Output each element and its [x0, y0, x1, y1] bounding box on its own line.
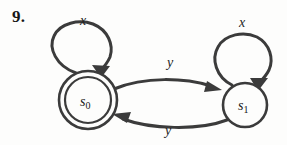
transition-label-s0-to-s1: y — [167, 56, 173, 70]
state-s0-subscript: 0 — [85, 100, 90, 111]
state-s1-subscript: 1 — [243, 104, 248, 115]
transition-s0-self-loop-path — [52, 22, 111, 73]
state-node-s0[interactable]: s0 — [59, 71, 117, 129]
figure-container: 9. s0 — [0, 0, 287, 145]
transition-s0-to-s1 — [114, 80, 222, 92]
transition-s1-to-s0-path — [123, 119, 227, 127]
transition-label-s0-self-loop: x — [80, 14, 86, 28]
transition-label-s1-to-s0: y — [165, 124, 171, 138]
transition-s0-to-s1-arrowhead — [204, 81, 222, 92]
state-node-s1[interactable]: s1 — [223, 83, 267, 127]
transition-s0-to-s1-path — [114, 80, 211, 89]
transition-s0-self-loop — [52, 22, 111, 78]
transition-s1-self-loop-path — [215, 34, 271, 85]
transition-label-s1-self-loop: x — [239, 16, 245, 30]
